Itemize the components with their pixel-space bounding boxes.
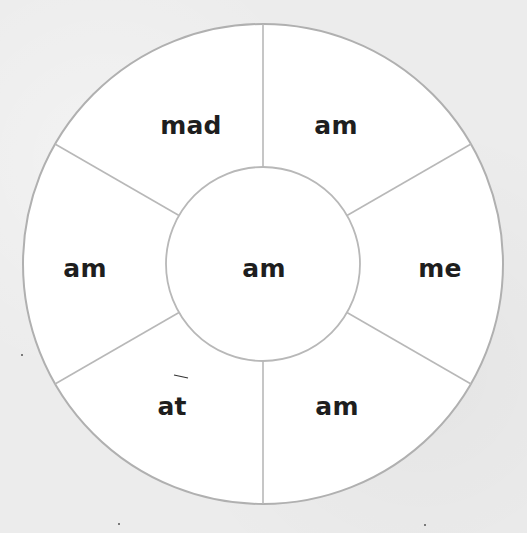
speck xyxy=(424,524,426,526)
segment-word-bottom-left: at xyxy=(157,394,186,419)
segment-word-top-left: mad xyxy=(160,113,221,138)
segment-word-left: am xyxy=(63,256,106,281)
speck xyxy=(21,354,23,356)
speck xyxy=(118,523,120,525)
segment-word-right: me xyxy=(418,256,461,281)
segment-word-bottom-right: am xyxy=(315,394,358,419)
center-word: am xyxy=(242,256,285,281)
segment-word-top-right: am xyxy=(314,113,357,138)
